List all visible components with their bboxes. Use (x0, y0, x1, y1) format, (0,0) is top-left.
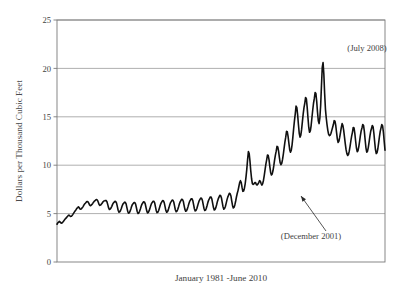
y-tick-label: 20 (42, 64, 51, 74)
y-tick-label: 25 (42, 15, 51, 25)
y-tick-label: 5 (47, 209, 51, 219)
y-tick-label: 0 (47, 257, 51, 267)
y-axis-label: Dollars per Thousand Cubic Feet (14, 80, 24, 202)
y-tick-label: 15 (42, 112, 51, 122)
annotation-label-july-2008-peak: (July 2008) (347, 43, 387, 53)
gas-price-chart: 0510152025 (July 2008)(December 2001) Do… (0, 0, 414, 299)
y-tick-label: 10 (42, 160, 51, 170)
x-axis-label: January 1981 -June 2010 (175, 273, 268, 283)
annotation-label-december-2001-trough: (December 2001) (281, 231, 342, 241)
